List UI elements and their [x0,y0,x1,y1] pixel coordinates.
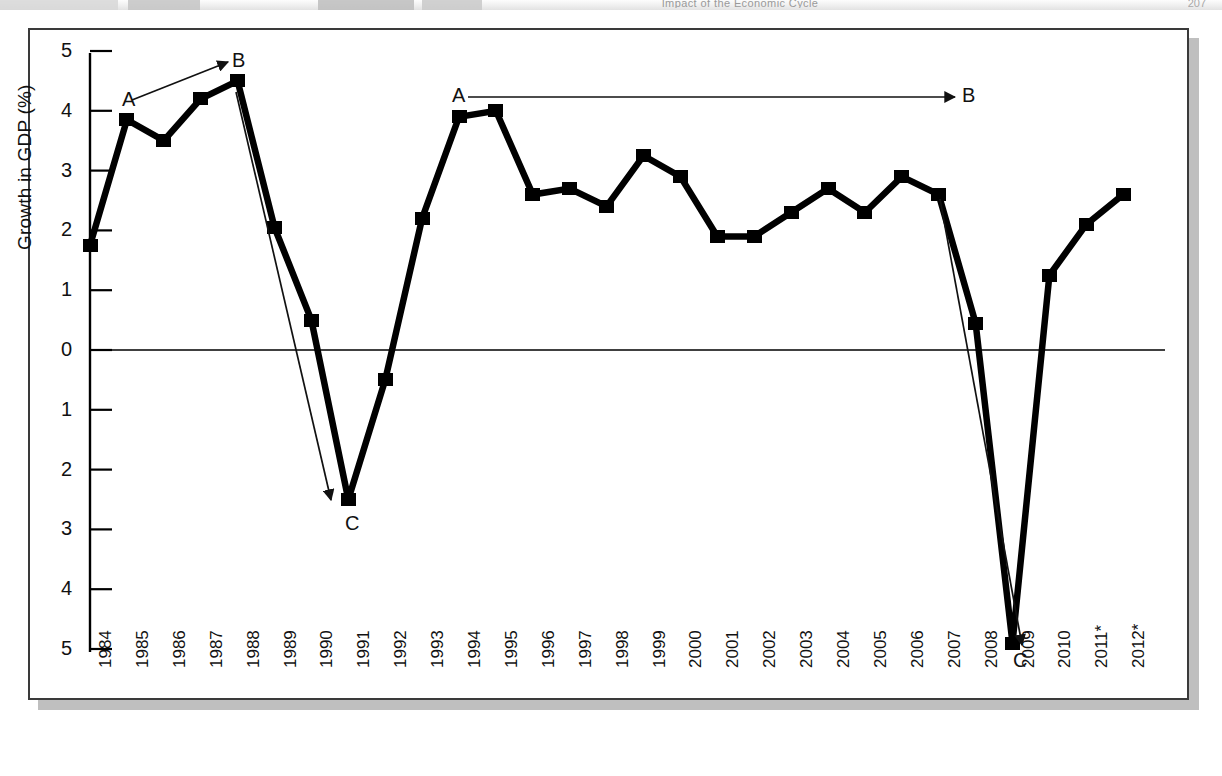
header-smudge-1 [0,0,118,10]
page-number: 207 [1188,0,1206,8]
page-header-strip: Impact of the Economic Cycle 207 [0,0,1222,14]
running-head: Impact of the Economic Cycle [560,0,920,8]
figure-frame [28,28,1189,700]
header-smudge-2 [128,0,200,10]
header-smudge-3 [318,0,414,10]
header-smudge-4 [422,0,482,10]
